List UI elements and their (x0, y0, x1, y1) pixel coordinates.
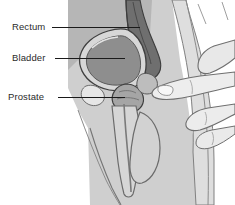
thumb-shape (198, 40, 235, 74)
glove-hatch-2 (222, 2, 228, 20)
leader-line-prostate (58, 97, 125, 98)
illustration-figure: Rectum Bladder Prostate (0, 0, 235, 205)
label-prostate: Prostate (8, 91, 44, 102)
leader-line-bladder (55, 58, 125, 59)
label-bladder: Bladder (12, 52, 45, 63)
glove-hatch-1 (198, 4, 206, 24)
leader-line-rectum (52, 27, 140, 28)
index-finger-nail (158, 85, 173, 95)
label-rectum: Rectum (12, 21, 45, 32)
